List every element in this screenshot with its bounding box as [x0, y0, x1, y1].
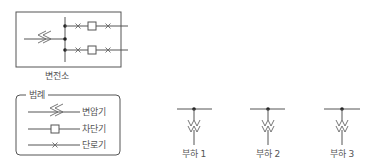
feeder-1: [65, 22, 128, 30]
transformer-icon: [50, 104, 63, 116]
legend-label-breaker: 차단기: [82, 123, 106, 134]
legend-row-breaker: 차단기: [28, 123, 106, 134]
circuit-breaker-icon: [51, 125, 59, 133]
power-diagram: 변전소 범례 변압기 차단기 단로기: [0, 0, 380, 167]
load-label: 부하 2: [256, 149, 281, 159]
legend-label-transformer: 변압기: [82, 106, 106, 117]
load-1: 부하 1: [177, 107, 212, 159]
legend-row-disconnector: 단로기: [28, 140, 106, 150]
legend-title: 범례: [29, 90, 45, 100]
bus-node: [63, 37, 67, 41]
load-label: 부하 3: [330, 149, 355, 159]
load-3: 부하 3: [324, 107, 360, 159]
substation-label: 변전소: [45, 71, 69, 81]
transformer-icon: [38, 31, 51, 43]
substation: 변전소: [16, 12, 128, 81]
legend: 범례 변압기 차단기 단로기: [16, 90, 120, 155]
circuit-breaker-icon: [88, 22, 96, 30]
legend-label-disconnector: 단로기: [82, 140, 106, 150]
legend-row-transformer: 변압기: [28, 104, 106, 117]
circuit-breaker-icon: [88, 46, 96, 54]
load-label: 부하 1: [182, 149, 207, 159]
feeder-2: [65, 46, 128, 54]
load-2: 부하 2: [250, 107, 285, 159]
